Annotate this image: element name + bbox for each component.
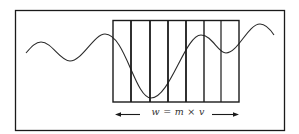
sampling-grid [113,21,239,103]
left-arrow-icon [115,112,140,116]
width-formula-label: w = m × v [148,106,208,117]
right-arrow-icon [212,112,239,116]
